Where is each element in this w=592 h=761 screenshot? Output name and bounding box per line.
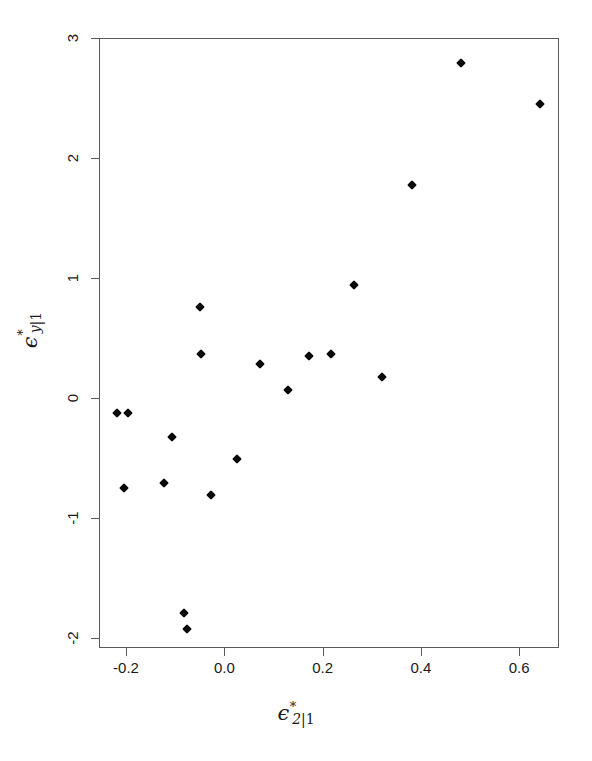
y-label-subscript-suffix: |1 xyxy=(28,312,44,326)
data-point xyxy=(119,483,129,493)
y-axis-tick xyxy=(91,158,99,159)
data-point xyxy=(196,349,206,359)
x-axis-tick-label: 0.6 xyxy=(509,659,530,676)
x-axis-tick-label: -0.2 xyxy=(113,659,139,676)
data-point xyxy=(167,432,177,442)
data-point xyxy=(182,624,192,634)
data-point xyxy=(206,490,216,500)
plot-frame xyxy=(99,38,559,648)
data-point xyxy=(377,372,387,382)
x-label-subscript: 2 xyxy=(292,711,301,727)
x-axis-tick-label: 0.4 xyxy=(410,659,431,676)
y-axis-tick xyxy=(91,638,99,639)
x-label-subscript-suffix: |1 xyxy=(301,711,315,727)
data-point xyxy=(112,408,122,418)
data-point xyxy=(304,351,314,361)
y-axis-tick xyxy=(91,518,99,519)
data-point xyxy=(232,454,242,464)
y-axis-tick xyxy=(91,38,99,39)
y-axis-label: ϵ*y|1 xyxy=(16,312,43,348)
data-point xyxy=(255,359,265,369)
y-axis-tick-label: -2 xyxy=(64,631,81,644)
data-point xyxy=(349,280,359,290)
y-axis-tick-label: 2 xyxy=(64,154,81,162)
y-axis-tick xyxy=(91,278,99,279)
data-point xyxy=(326,349,336,359)
y-axis-tick-label: -1 xyxy=(64,511,81,524)
y-axis-tick-label: 1 xyxy=(64,274,81,282)
data-point xyxy=(407,180,417,190)
x-axis-tick xyxy=(421,648,422,656)
x-axis-label-expression: ϵ*2|1 xyxy=(277,700,314,727)
x-axis-tick xyxy=(224,648,225,656)
data-point xyxy=(456,58,466,68)
x-axis-tick-label: 0.2 xyxy=(312,659,333,676)
y-label-subscript: y xyxy=(28,325,44,333)
y-label-epsilon: ϵ xyxy=(18,336,42,348)
x-axis-tick xyxy=(323,648,324,656)
x-axis-tick-label: 0.0 xyxy=(214,659,235,676)
y-axis-label-expression: ϵ*y|1 xyxy=(16,312,43,348)
y-axis-tick xyxy=(91,398,99,399)
plot-data-area xyxy=(100,39,558,647)
data-point xyxy=(195,302,205,312)
y-axis-tick-label: 0 xyxy=(64,394,81,402)
y-axis-tick-label: 3 xyxy=(64,34,81,42)
scatter-plot-figure: -0.20.00.20.40.6 3210-1-2 ϵ*2|1 ϵ*y|1 xyxy=(0,0,592,761)
data-point xyxy=(179,608,189,618)
x-axis-tick xyxy=(519,648,520,656)
data-point xyxy=(159,478,169,488)
x-axis-label: ϵ*2|1 xyxy=(277,700,314,727)
data-point xyxy=(283,385,293,395)
data-point xyxy=(535,99,545,109)
data-point xyxy=(123,408,133,418)
x-label-epsilon: ϵ xyxy=(277,701,289,725)
x-axis-tick xyxy=(126,648,127,656)
